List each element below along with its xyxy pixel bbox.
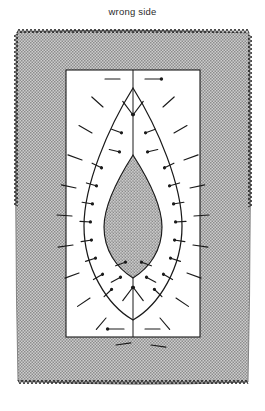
diagram-stage: wrong side: [0, 0, 265, 411]
sewing-diagram-figure: [0, 0, 265, 411]
